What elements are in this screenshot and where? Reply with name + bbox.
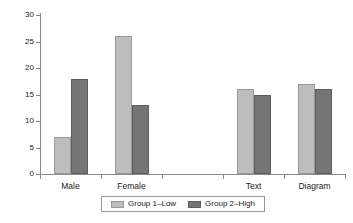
x-tick-mark: [284, 174, 285, 179]
x-axis-line: [40, 174, 345, 175]
chart-legend: Group 1–Low Group 2–High: [101, 196, 265, 212]
x-tick-mark: [162, 174, 163, 179]
y-tick-label: 20: [12, 64, 34, 72]
x-tick-mark: [101, 174, 102, 179]
legend-item-group-2-high: Group 2–High: [188, 200, 255, 208]
y-tick-label: 30: [12, 11, 34, 19]
y-tick-label: 5: [12, 144, 34, 152]
x-tick-mark: [345, 174, 346, 179]
bar: [132, 105, 149, 174]
bar: [298, 84, 315, 174]
bar: [115, 36, 132, 174]
x-tick-mark: [40, 174, 41, 179]
legend-swatch-low: [111, 201, 124, 208]
bar-chart: 051015202530 MaleFemaleTextDiagram Group…: [0, 0, 353, 223]
x-axis-label-diagram: Diagram: [275, 181, 353, 191]
bar: [237, 89, 254, 174]
bar: [54, 137, 71, 174]
legend-swatch-high: [188, 201, 201, 208]
plot-area: [40, 15, 345, 174]
bar: [315, 89, 332, 174]
bar: [254, 95, 271, 175]
y-tick-label: 15: [12, 91, 34, 99]
legend-label-high: Group 2–High: [205, 200, 255, 208]
y-tick-label: 0: [12, 170, 34, 178]
y-tick-label: 25: [12, 38, 34, 46]
y-tick-label: 10: [12, 117, 34, 125]
legend-label-low: Group 1–Low: [128, 200, 176, 208]
legend-item-group-1-low: Group 1–Low: [111, 200, 176, 208]
x-tick-mark: [223, 174, 224, 179]
x-axis-label-female: Female: [92, 181, 172, 191]
bar: [71, 79, 88, 174]
